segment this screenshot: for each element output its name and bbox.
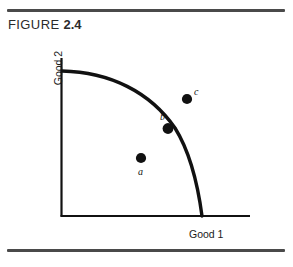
ppf-curve <box>62 71 202 216</box>
figure-bottom-rule <box>7 249 285 252</box>
data-point-c <box>182 94 192 104</box>
data-point-a <box>136 153 146 163</box>
chart-canvas <box>0 0 293 267</box>
data-point-label-b: b <box>160 111 165 122</box>
x-axis-title: Good 1 <box>189 228 223 240</box>
y-axis-title: Good 2 <box>52 42 64 94</box>
ppf-chart: Good 2 Good 1 a b c <box>0 0 293 267</box>
data-point-label-c: c <box>194 86 198 97</box>
data-point-b <box>163 123 174 134</box>
data-point-label-a: a <box>138 166 143 177</box>
